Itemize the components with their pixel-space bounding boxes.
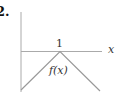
function-graph: [0, 0, 122, 102]
x-axis-label: x: [108, 43, 114, 56]
function-label: f(x): [49, 64, 68, 77]
peak-label: 1: [56, 37, 63, 50]
